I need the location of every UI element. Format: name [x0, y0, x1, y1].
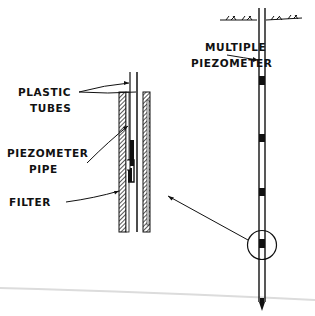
label-tubes: TUBES [30, 102, 71, 115]
label-pipe: PIPE [29, 163, 58, 176]
piezometer-marker-2 [259, 134, 265, 142]
label-multiple: MULTIPLE [205, 41, 266, 54]
scan-artifact-line [0, 288, 315, 300]
leader-plastic-tubes-2 [79, 92, 136, 93]
piezometer-marker-1 [259, 76, 265, 85]
leader-filter [66, 191, 119, 202]
piezometer-marker-4 [259, 239, 265, 248]
label-plastic: PLASTIC [18, 86, 71, 99]
label-piezometer-detail: PIEZOMETER [7, 147, 88, 160]
leader-plastic-tubes-1 [79, 83, 129, 92]
diagram-canvas: MULTIPLE PIEZOMETER PLASTIC TUBES PIEZOM… [0, 0, 315, 316]
label-filter: FILTER [9, 196, 51, 209]
detail-leader-line [168, 196, 248, 240]
piezometer-marker-3 [259, 188, 265, 196]
detail-view [119, 72, 150, 232]
detail-leader-arrowhead [168, 196, 174, 201]
pipe-tip [259, 302, 265, 311]
ground-surface [220, 15, 302, 20]
label-piezometer: PIEZOMETER [191, 57, 272, 70]
